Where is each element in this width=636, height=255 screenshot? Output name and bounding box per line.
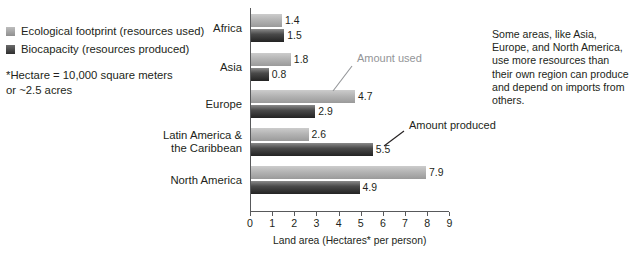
category-label-line: North America (92, 174, 242, 187)
bar-value-label: 0.8 (272, 68, 286, 81)
bar-value-label: 7.9 (429, 166, 443, 179)
x-axis-tick-label: 9 (439, 217, 459, 229)
bar-value-label: 1.5 (287, 29, 301, 42)
x-axis-tick-label: 1 (262, 217, 282, 229)
category-label: Africa (92, 22, 242, 35)
x-axis-tick (294, 212, 295, 216)
x-axis-line (250, 211, 449, 212)
bar-value-label: 4.7 (358, 90, 372, 103)
x-axis-tick (272, 212, 273, 216)
category-label-line: the Caribbean (92, 142, 242, 155)
category-label-line: Europe (92, 98, 242, 111)
annotation-amount-used: Amount used (357, 52, 422, 64)
bar-value-label: 2.6 (312, 128, 326, 141)
bar (251, 14, 282, 27)
category-label: Asia (92, 61, 242, 74)
bar (251, 90, 355, 103)
bar (251, 105, 315, 118)
x-axis-tick-label: 4 (329, 217, 349, 229)
bar (251, 166, 426, 179)
x-axis-tick-label: 2 (284, 217, 304, 229)
x-axis-tick (361, 212, 362, 216)
annotation-amount-produced: Amount produced (409, 119, 496, 131)
x-axis-tick-label: 6 (373, 217, 393, 229)
category-label-line: Africa (92, 22, 242, 35)
bar-value-label: 2.9 (318, 105, 332, 118)
x-axis-tick (427, 212, 428, 216)
category-label: Europe (92, 98, 242, 111)
bar (251, 68, 269, 81)
category-label: North America (92, 174, 242, 187)
x-axis-tick (383, 212, 384, 216)
bar-chart: AfricaAsiaEuropeLatin America &the Carib… (0, 0, 636, 255)
x-axis-tick-label: 5 (351, 217, 371, 229)
x-axis-tick-label: 8 (417, 217, 437, 229)
x-axis-tick-label: 0 (240, 217, 260, 229)
bar (251, 29, 284, 42)
bar (251, 181, 360, 194)
x-axis-tick (250, 212, 251, 216)
x-axis-title: Land area (Hectares* per person) (250, 235, 449, 246)
category-axis-labels: AfricaAsiaEuropeLatin America &the Carib… (90, 0, 242, 212)
category-label-line: Asia (92, 61, 242, 74)
bar (251, 128, 309, 141)
x-axis-tick (449, 212, 450, 216)
category-label-line: Latin America & (92, 129, 242, 142)
x-axis-tick (339, 212, 340, 216)
bar-value-label: 5.5 (376, 143, 390, 156)
bar-value-label: 1.4 (285, 14, 299, 27)
bar-value-label: 4.9 (363, 181, 377, 194)
x-axis-tick (405, 212, 406, 216)
x-axis-tick-label: 3 (306, 217, 326, 229)
x-axis-tick (316, 212, 317, 216)
x-axis-tick-label: 7 (395, 217, 415, 229)
bar (251, 143, 373, 156)
bar-value-label: 1.8 (294, 53, 308, 66)
bar (251, 53, 291, 66)
category-label: Latin America &the Caribbean (92, 129, 242, 155)
